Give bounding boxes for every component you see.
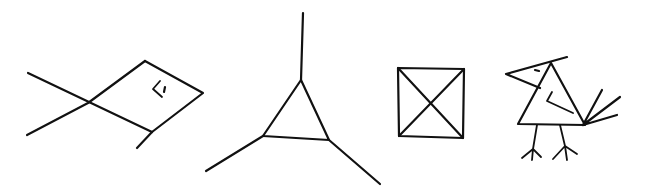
bird-beak (506, 57, 567, 88)
triangle-shape (263, 80, 329, 140)
spoke-top (301, 13, 303, 80)
fish-pupil (164, 87, 165, 92)
fish-fin (137, 132, 152, 148)
sketch-canvas: Four hand-drawn line sketches fish trian… (0, 0, 648, 193)
fish-tail-lower (27, 61, 145, 135)
sketch-svg: fish triangle with three spokes square w… (0, 0, 648, 193)
square-cross-drawing: square with diagonals (398, 68, 464, 138)
fish-body (145, 61, 203, 132)
bird-leg-left (522, 125, 541, 160)
bird-tail (583, 90, 620, 125)
triangle-spokes-drawing: triangle with three spokes (206, 13, 380, 184)
bird-drawing: bird (506, 57, 620, 160)
spoke-right (329, 140, 380, 184)
spoke-left (206, 136, 263, 171)
bird-leg-right (553, 125, 577, 160)
fish-drawing: fish (27, 61, 203, 148)
bird-eye-icon (535, 70, 539, 71)
fish-eye-icon (153, 81, 162, 97)
